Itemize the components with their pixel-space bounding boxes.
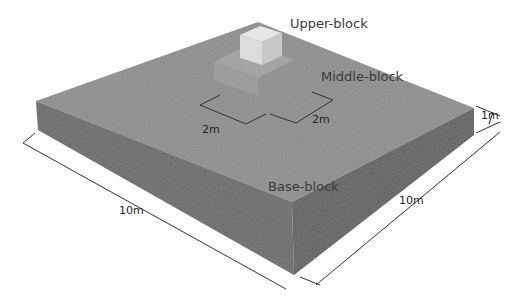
dim-label-middle-width-1: 2m bbox=[202, 124, 220, 135]
dim-label-base-height: 1m bbox=[481, 110, 499, 121]
middle-block-label: Middle-block bbox=[321, 70, 403, 83]
dim-label-middle-width-2: 2m bbox=[312, 114, 330, 125]
upper-block-label: Upper-block bbox=[290, 17, 368, 30]
diagram-canvas: Upper-block Middle-block Base-block 2m 2… bbox=[0, 0, 512, 302]
dim-label-base-length-left: 10m bbox=[119, 205, 144, 216]
dim-label-base-length-right: 10m bbox=[399, 195, 424, 206]
block-diagram-svg bbox=[0, 0, 512, 302]
base-block-label: Base-block bbox=[268, 180, 339, 193]
